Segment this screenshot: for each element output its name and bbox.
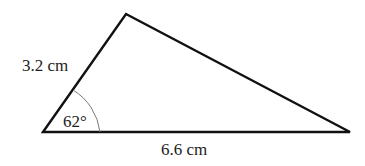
triangle-diagram: 3.2 cm 62° 6.6 cm	[0, 0, 365, 166]
side-bottom-label: 6.6 cm	[161, 141, 207, 158]
triangle-outline	[43, 14, 350, 132]
angle-label: 62°	[63, 113, 87, 130]
side-left-label: 3.2 cm	[22, 57, 68, 74]
